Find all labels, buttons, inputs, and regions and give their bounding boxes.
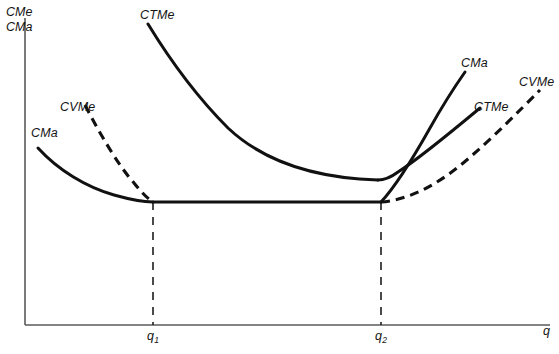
tick-label-q1-base: q: [147, 329, 154, 343]
tick-label-q1: q1: [147, 329, 159, 343]
curve-cma-right-branch: [381, 72, 465, 202]
curve-ctme-left-branch: [148, 24, 378, 180]
curve-label-ctme-right: CTMe: [474, 100, 509, 114]
tick-label-q2-base: q: [375, 329, 382, 343]
curve-cvme-right-branch: [381, 90, 540, 202]
tick-label-q1-subscript: 1: [154, 335, 159, 345]
y-axis-label-line2: CMa: [6, 20, 32, 35]
curve-label-cvme-left: CVMe: [60, 100, 95, 114]
y-axis-label: CMe CMa: [6, 5, 32, 34]
tick-label-q2-subscript: 2: [382, 335, 387, 345]
curve-label-cma-right: CMa: [461, 56, 488, 70]
y-axis-label-line1: CMe: [6, 5, 32, 20]
curve-cma-left-branch: [38, 148, 153, 202]
tick-label-q2: q2: [375, 329, 387, 343]
curve-label-ctme-top: CTMe: [140, 8, 175, 22]
curve-label-cma-left: CMa: [31, 126, 58, 140]
curve-label-cvme-right: CVMe: [519, 75, 554, 89]
plot-area: [0, 0, 559, 354]
cost-curves-figure: CMe CMa q q1 q2 CMa CVMe CTMe CMa CTMe C…: [0, 0, 559, 354]
x-axis-label: q: [543, 324, 550, 338]
curve-ctme-right-branch: [378, 108, 480, 180]
